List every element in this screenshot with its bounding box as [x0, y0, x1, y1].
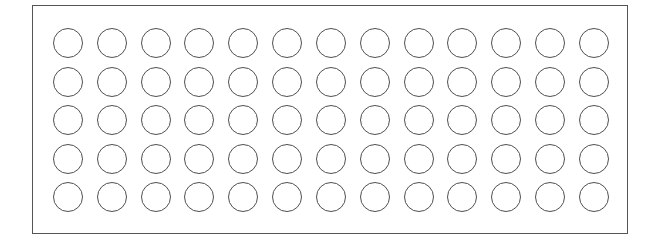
- circle-r5-c13: [579, 182, 609, 212]
- circle-r1-c4: [184, 28, 214, 58]
- circle-r1-c13: [579, 28, 609, 58]
- circle-r3-c2: [97, 105, 127, 135]
- circle-r3-c8: [360, 105, 390, 135]
- circle-r3-c5: [228, 105, 258, 135]
- circle-r4-c11: [491, 144, 521, 174]
- circle-r1-c1: [53, 28, 83, 58]
- circle-r3-c3: [141, 105, 171, 135]
- circle-r3-c4: [184, 105, 214, 135]
- circle-r3-c7: [316, 105, 346, 135]
- circle-r2-c11: [491, 67, 521, 97]
- circle-r1-c6: [272, 28, 302, 58]
- circle-r1-c3: [141, 28, 171, 58]
- circle-r5-c5: [228, 182, 258, 212]
- circle-r1-c5: [228, 28, 258, 58]
- circle-r2-c5: [228, 67, 258, 97]
- circle-r5-c7: [316, 182, 346, 212]
- circle-r4-c6: [272, 144, 302, 174]
- circle-r1-c2: [97, 28, 127, 58]
- circle-r4-c2: [97, 144, 127, 174]
- circle-r1-c9: [404, 28, 434, 58]
- circle-r4-c4: [184, 144, 214, 174]
- circle-r2-c4: [184, 67, 214, 97]
- circle-r2-c3: [141, 67, 171, 97]
- circle-r1-c8: [360, 28, 390, 58]
- circle-r1-c11: [491, 28, 521, 58]
- circle-r3-c1: [53, 105, 83, 135]
- circle-r3-c11: [491, 105, 521, 135]
- circle-r1-c7: [316, 28, 346, 58]
- circle-r2-c13: [579, 67, 609, 97]
- circle-r4-c8: [360, 144, 390, 174]
- circle-r5-c2: [97, 182, 127, 212]
- circle-r4-c7: [316, 144, 346, 174]
- circle-r1-c12: [535, 28, 565, 58]
- circle-r4-c3: [141, 144, 171, 174]
- circle-r5-c10: [447, 182, 477, 212]
- circle-r3-c10: [447, 105, 477, 135]
- circle-r2-c6: [272, 67, 302, 97]
- circle-r2-c1: [53, 67, 83, 97]
- circle-r4-c5: [228, 144, 258, 174]
- circle-r2-c2: [97, 67, 127, 97]
- circle-r2-c12: [535, 67, 565, 97]
- circle-grid: [0, 0, 655, 249]
- circle-r2-c8: [360, 67, 390, 97]
- circle-r4-c12: [535, 144, 565, 174]
- circle-r5-c12: [535, 182, 565, 212]
- circle-r4-c1: [53, 144, 83, 174]
- circle-r2-c9: [404, 67, 434, 97]
- circle-r5-c8: [360, 182, 390, 212]
- circle-r2-c7: [316, 67, 346, 97]
- circle-r3-c13: [579, 105, 609, 135]
- circle-r5-c6: [272, 182, 302, 212]
- circle-r3-c6: [272, 105, 302, 135]
- circle-r3-c9: [404, 105, 434, 135]
- circle-r1-c10: [447, 28, 477, 58]
- circle-r2-c10: [447, 67, 477, 97]
- circle-r5-c4: [184, 182, 214, 212]
- circle-r5-c11: [491, 182, 521, 212]
- circle-r4-c13: [579, 144, 609, 174]
- circle-r5-c3: [141, 182, 171, 212]
- circle-r4-c10: [447, 144, 477, 174]
- circle-r4-c9: [404, 144, 434, 174]
- circle-r3-c12: [535, 105, 565, 135]
- circle-r5-c1: [53, 182, 83, 212]
- circle-r5-c9: [404, 182, 434, 212]
